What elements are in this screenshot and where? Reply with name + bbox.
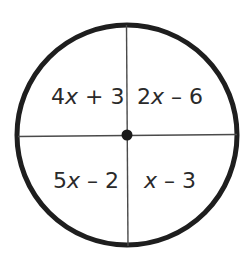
quadrant-label-bottom-left: 5x – 2 <box>53 170 119 192</box>
constant-term: + 3 <box>78 84 124 109</box>
constant-term: – 3 <box>157 168 196 193</box>
coefficient: 5 <box>53 168 67 193</box>
variable: x <box>151 84 164 109</box>
variable: x <box>67 168 80 193</box>
variable: x <box>144 168 157 193</box>
quadrant-label-top-left: 4x + 3 <box>51 86 124 108</box>
quadrant-label-bottom-right: x – 3 <box>144 170 196 192</box>
quadrant-label-top-right: 2x – 6 <box>137 86 203 108</box>
center-dot <box>122 130 133 141</box>
quadrant-circle-diagram <box>0 0 252 258</box>
constant-term: – 2 <box>80 168 119 193</box>
variable: x <box>65 84 78 109</box>
constant-term: – 6 <box>164 84 203 109</box>
coefficient: 2 <box>137 84 151 109</box>
coefficient: 4 <box>51 84 65 109</box>
